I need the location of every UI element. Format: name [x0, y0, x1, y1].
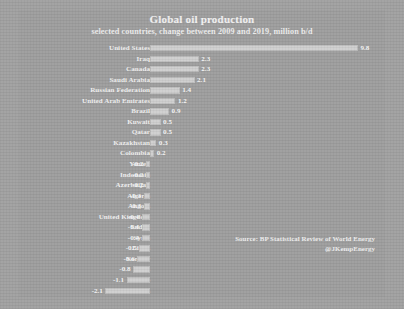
bar-row: Saudi Arabia2.1: [19, 75, 385, 86]
category-label: Colombia: [50, 148, 150, 159]
bar-row: Brazil0.9: [19, 106, 385, 117]
value-label: -0.2: [132, 170, 143, 181]
bar: [142, 214, 150, 220]
bar-row: United Arab Emirates1.2: [19, 96, 385, 107]
bar: [139, 245, 150, 251]
bar: [150, 77, 195, 83]
category-label: Iraq: [50, 54, 150, 65]
category-label-wrap: Qatar: [19, 127, 150, 138]
bar: [150, 56, 199, 62]
category-label-wrap: Canada: [19, 64, 150, 75]
source-line-2: @JKempEnergy: [235, 244, 375, 254]
value-label: 9.8: [361, 43, 370, 54]
bar-row: Mexico-1.1: [19, 275, 385, 286]
bar: [137, 256, 150, 262]
category-label-wrap: Indonesia: [19, 170, 150, 181]
value-label: -0.4: [128, 222, 139, 233]
value-label: 2.1: [197, 75, 206, 86]
value-label: -0.2: [132, 159, 143, 170]
value-label: 0.2: [157, 148, 166, 159]
value-label: -0.6: [124, 254, 135, 265]
bar-row: Sudan-0.4: [19, 222, 385, 233]
value-label: -0.4: [128, 233, 139, 244]
bar-row: Norway-0.6: [19, 254, 385, 265]
bar-row: Indonesia-0.2: [19, 170, 385, 181]
bar-row: Colombia0.2: [19, 148, 385, 159]
chart-figure: Global oil production selected countries…: [0, 0, 404, 309]
value-label: -0.3: [130, 191, 141, 202]
value-label: 1.4: [182, 85, 191, 96]
chart-subtitle: selected countries, change between 2009 …: [19, 26, 385, 37]
value-label: 0.9: [172, 106, 181, 117]
bar-row: Algeria-0.3: [19, 191, 385, 202]
bar: [150, 98, 175, 104]
title-block: Global oil production selected countries…: [19, 13, 385, 37]
bar: [146, 182, 150, 188]
bar-row: Kuwait0.5: [19, 117, 385, 128]
category-label-wrap: United Arab Emirates: [19, 96, 150, 107]
bar-row: Qatar0.5: [19, 127, 385, 138]
bar-row: Angola-0.3: [19, 201, 385, 212]
bar: [133, 266, 150, 272]
value-label: -0.2: [132, 180, 143, 191]
bar: [105, 288, 150, 294]
category-label-wrap: Kazakhstan: [19, 138, 150, 149]
bar-row: Venezuela-2.1: [19, 286, 385, 297]
category-label: Qatar: [50, 127, 150, 138]
source-line-1: Source: BP Statistical Review of World E…: [235, 234, 375, 244]
bar: [127, 277, 150, 283]
value-label: -2.1: [92, 286, 103, 297]
category-label: Kuwait: [50, 117, 150, 128]
bar-rows: United States9.8Iraq2.3Canada2.3Saudi Ar…: [19, 43, 385, 296]
bar: [150, 66, 199, 72]
category-label: Brazil: [50, 106, 150, 117]
plot-area: Global oil production selected countries…: [19, 10, 385, 297]
category-label-wrap: Iraq: [19, 54, 150, 65]
value-label: 2.3: [201, 64, 210, 75]
bar: [150, 87, 180, 93]
bar-row: Russian Federation1.4: [19, 85, 385, 96]
category-label-wrap: Saudi Arabia: [19, 75, 150, 86]
bar: [146, 161, 150, 167]
bar-row: United Kingdom-0.4: [19, 212, 385, 223]
value-label: -0.5: [126, 243, 137, 254]
bar: [142, 235, 150, 241]
bar: [150, 119, 161, 125]
value-label: -1.1: [113, 275, 124, 286]
value-label: 0.5: [163, 127, 172, 138]
value-label: -0.3: [130, 201, 141, 212]
bar: [150, 129, 161, 135]
bar: [144, 203, 150, 209]
category-label-wrap: Brazil: [19, 106, 150, 117]
category-label-wrap: Yemen: [19, 159, 150, 170]
bar: [144, 193, 150, 199]
bar-row: Canada2.3: [19, 64, 385, 75]
category-label: Kazakhstan: [50, 138, 150, 149]
category-label: Saudi Arabia: [50, 75, 150, 86]
category-label-wrap: United States: [19, 43, 150, 54]
category-label-wrap: Colombia: [19, 148, 150, 159]
value-label: 0.5: [163, 117, 172, 128]
bar-row: United States9.8: [19, 43, 385, 54]
category-label: United Arab Emirates: [50, 96, 150, 107]
value-label: -0.4: [128, 212, 139, 223]
category-label: Russian Federation: [50, 85, 150, 96]
category-label: United States: [50, 43, 150, 54]
bar: [146, 172, 150, 178]
bar: [150, 108, 169, 114]
bar-row: Azerbaijan-0.2: [19, 180, 385, 191]
category-label: Canada: [50, 64, 150, 75]
category-label: Norway: [50, 254, 150, 265]
bar: [150, 140, 156, 146]
category-label-wrap: Russian Federation: [19, 85, 150, 96]
value-label: 0.3: [159, 138, 168, 149]
category-label-wrap: Azerbaijan: [19, 180, 150, 191]
category-label-wrap: Kuwait: [19, 117, 150, 128]
bar-row: Iraq2.3: [19, 54, 385, 65]
source-note: Source: BP Statistical Review of World E…: [235, 234, 375, 253]
bar-row: Iran-0.8: [19, 264, 385, 275]
bar: [150, 45, 358, 51]
value-label: 1.2: [178, 96, 187, 107]
bar: [150, 150, 154, 156]
page-title: Global oil production: [19, 13, 385, 26]
